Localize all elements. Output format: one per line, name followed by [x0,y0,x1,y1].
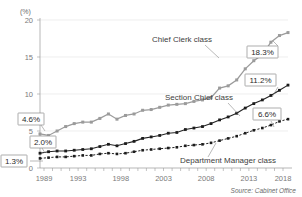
source-attribution: Source: Cabinet Office [231,187,297,194]
data-point [90,121,93,124]
data-point [107,143,110,146]
data-point [244,107,247,110]
data-point [175,103,178,106]
data-point [56,150,59,153]
data-point [227,116,230,119]
data-point [270,94,273,97]
data-point [227,137,230,140]
data-point [167,147,170,150]
data-point [56,130,59,133]
data-point [141,137,144,140]
callout-dept-manager-end: 6.6% [253,108,281,127]
data-point [116,153,119,156]
data-point [99,153,102,156]
y-axis-unit-label: (%) [20,8,31,16]
y-tick-label-0: 0 [29,164,33,173]
data-point [269,41,272,44]
data-point [244,67,247,70]
data-point [287,31,290,34]
callout-chief-clerk-end: 18.3% [247,41,278,58]
line-chart: (%) 20 15 10 5 0 [0,0,302,197]
data-point [107,152,110,155]
data-point [90,147,93,150]
series-section-chief [39,84,290,155]
series-label-dept-manager: Department Manager class [180,156,276,165]
data-point [141,149,144,152]
data-point [115,118,118,121]
data-point [278,34,281,37]
data-point [175,131,178,134]
leader-dept-manager [208,143,216,157]
y-tick-label-5: 5 [29,127,33,136]
data-point [81,121,84,124]
leader-cc-end [273,41,278,46]
data-point [73,122,76,125]
data-point [107,112,110,115]
data-point [116,144,119,147]
data-point [184,102,187,105]
data-point [201,125,204,128]
data-point [73,155,76,158]
data-point [210,142,213,145]
y-tick-label-10: 10 [25,90,33,99]
data-point [278,120,281,123]
data-point [133,112,136,115]
data-point [124,152,127,155]
series-line-department-manager [40,119,288,158]
data-point [133,150,136,153]
data-point [158,134,161,137]
data-point [39,157,42,160]
callout-section-chief-start: 2.0% [30,136,56,153]
data-point [56,156,59,159]
data-point [227,84,230,87]
data-point [47,156,50,159]
data-point [261,99,264,102]
data-point [124,142,127,145]
data-point [252,129,255,132]
data-point [133,140,136,143]
series-department-manager [39,118,290,160]
series-label-section-chief: Section Chief class [165,93,233,102]
data-point [64,125,67,128]
x-tick-label-1989: 1989 [36,174,53,183]
data-point [141,109,144,112]
data-point [184,128,187,131]
callout-dept-manager-start: 1.3% [1,155,43,167]
x-tick-label-1993: 1993 [70,174,87,183]
callout-label-sc-end: 11.2% [249,76,271,85]
data-point [64,150,67,153]
data-point [287,118,290,121]
x-tickmarks [44,168,283,171]
data-point [47,150,50,153]
data-point [90,154,93,157]
data-point [39,132,42,135]
series-label-chief-clerk: Chief Clerk class [152,35,212,44]
data-point [150,148,153,151]
data-point [167,104,170,107]
data-point [81,148,84,151]
data-point [218,139,221,142]
data-point [235,135,238,138]
callout-label-cc-start: 4.6% [22,115,40,124]
callout-label-cc-end: 18.3% [251,48,274,57]
data-point [64,156,67,159]
data-point [98,117,101,120]
data-point [252,59,255,62]
data-point [210,122,213,125]
series-line-section-chief [40,85,288,153]
data-point [81,154,84,157]
data-point [73,149,76,152]
data-point [98,145,101,148]
data-point [39,152,42,155]
data-point [124,114,127,117]
chart-container: (%) 20 15 10 5 0 [0,0,302,197]
data-point [176,146,179,149]
data-point [158,106,161,109]
data-point [150,136,153,139]
x-tick-label-2018: 2018 [275,174,292,183]
data-point [235,78,238,81]
data-point [158,147,161,150]
x-tick-label-1998: 1998 [112,174,129,183]
callout-label-sc-start: 2.0% [34,138,52,147]
callout-label-dm-start: 1.3% [5,157,23,166]
